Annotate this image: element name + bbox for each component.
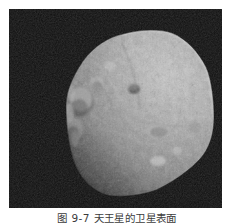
moon-photograph-svg [9,9,222,208]
figure-caption: 图 9-7 天王星的卫星表面 [0,212,234,223]
astronomical-photograph [9,9,222,208]
figure-container: 图 9-7 天王星的卫星表面 [0,0,234,223]
figure-caption-text: 图 9-7 天王星的卫星表面 [0,212,234,223]
